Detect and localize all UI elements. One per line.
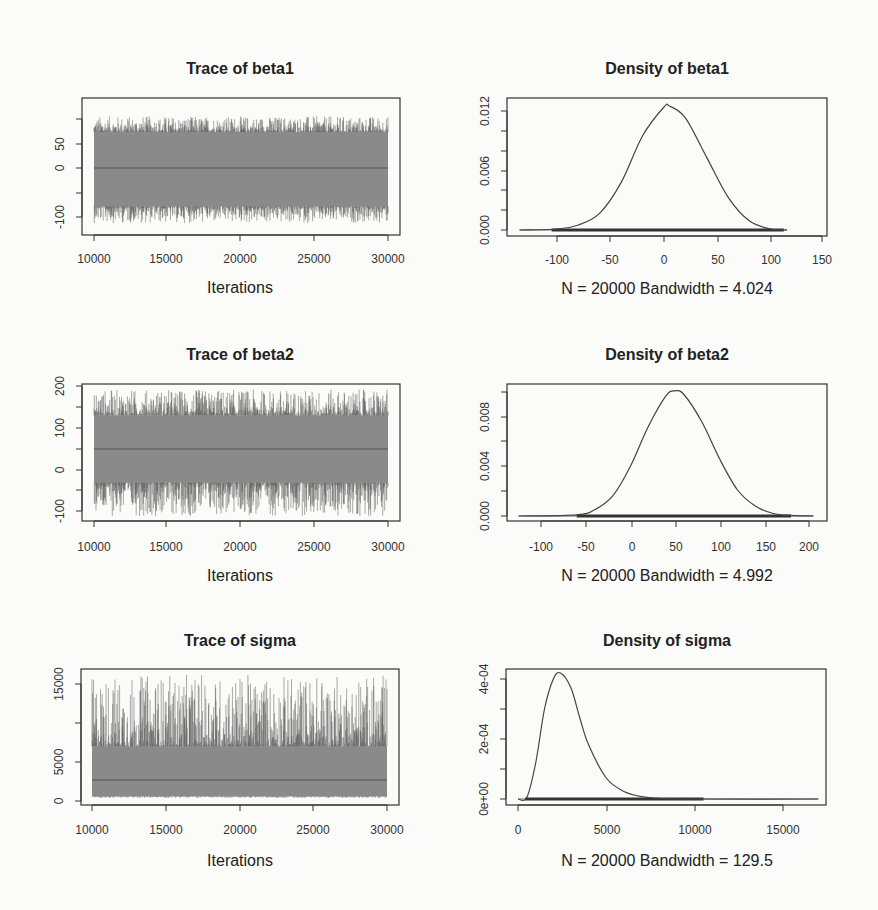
trace-band bbox=[94, 116, 388, 223]
svg-text:100: 100 bbox=[761, 253, 781, 267]
y-tick-labels: -100 0 100 200 bbox=[53, 376, 67, 523]
x-axis-label: N = 20000 Bandwidth = 4.024 bbox=[561, 280, 773, 297]
x-tick-labels: 10000 15000 20000 25000 30000 bbox=[77, 540, 405, 554]
x-axis-label: N = 20000 Bandwidth = 4.992 bbox=[561, 567, 773, 584]
plot-frame bbox=[506, 669, 826, 805]
x-axis-label: N = 20000 Bandwidth = 129.5 bbox=[561, 852, 773, 869]
svg-text:0.004: 0.004 bbox=[478, 451, 492, 481]
trace-band bbox=[94, 389, 388, 516]
svg-text:2e-04: 2e-04 bbox=[477, 723, 491, 754]
x-tick-labels: 10000 15000 20000 25000 30000 bbox=[77, 252, 405, 266]
svg-text:0.012: 0.012 bbox=[478, 96, 492, 126]
x-axis bbox=[94, 235, 388, 241]
y-axis bbox=[501, 111, 507, 230]
svg-text:150: 150 bbox=[756, 540, 776, 554]
svg-text:0: 0 bbox=[629, 540, 636, 554]
chart-title: Trace of sigma bbox=[184, 632, 296, 649]
svg-text:0.000: 0.000 bbox=[478, 501, 492, 531]
svg-text:15000: 15000 bbox=[149, 540, 183, 554]
plot-frame bbox=[507, 98, 827, 236]
chart-title: Density of beta1 bbox=[605, 60, 729, 77]
density-curve bbox=[518, 672, 818, 800]
svg-text:-100: -100 bbox=[53, 499, 67, 523]
svg-text:50: 50 bbox=[669, 540, 683, 554]
y-tick-labels: 0.000 0.006 0.012 bbox=[478, 96, 492, 245]
svg-text:0e+00: 0e+00 bbox=[477, 782, 491, 816]
y-axis bbox=[501, 392, 507, 516]
svg-text:-50: -50 bbox=[601, 253, 619, 267]
y-axis bbox=[76, 386, 82, 511]
svg-text:15000: 15000 bbox=[149, 823, 183, 837]
svg-text:15000: 15000 bbox=[766, 823, 800, 837]
chart-title: Density of sigma bbox=[603, 632, 731, 649]
svg-text:20000: 20000 bbox=[223, 823, 257, 837]
y-tick-labels: -100 50 0 bbox=[53, 137, 67, 229]
x-tick-labels: -100 -50 0 50 100 150 bbox=[545, 253, 832, 267]
svg-text:15000: 15000 bbox=[149, 252, 183, 266]
svg-text:0: 0 bbox=[515, 823, 522, 837]
svg-text:30000: 30000 bbox=[371, 252, 405, 266]
svg-text:100: 100 bbox=[711, 540, 731, 554]
svg-text:25000: 25000 bbox=[296, 823, 330, 837]
panel-density-beta1: Density of beta1 -100 -50 0 50 100 150 0… bbox=[478, 60, 832, 297]
y-axis bbox=[76, 119, 82, 217]
panel-trace-sigma: Trace of sigma 10000 15000 20000 25000 3… bbox=[52, 632, 404, 869]
svg-text:50: 50 bbox=[711, 253, 725, 267]
svg-text:0.006: 0.006 bbox=[478, 156, 492, 186]
svg-text:0: 0 bbox=[53, 466, 67, 473]
x-tick-labels: 0 5000 10000 15000 bbox=[515, 823, 800, 837]
y-tick-labels: 0 5000 15000 bbox=[52, 667, 66, 804]
svg-text:-100: -100 bbox=[545, 253, 569, 267]
svg-text:50: 50 bbox=[53, 137, 67, 151]
svg-text:5000: 5000 bbox=[52, 748, 66, 775]
svg-text:10000: 10000 bbox=[678, 823, 712, 837]
chart-title: Trace of beta2 bbox=[186, 346, 294, 363]
x-tick-labels: 10000 15000 20000 25000 30000 bbox=[75, 823, 404, 837]
x-axis-label: Iterations bbox=[207, 279, 273, 296]
trace-band bbox=[92, 675, 387, 798]
svg-text:10000: 10000 bbox=[75, 823, 109, 837]
svg-text:20000: 20000 bbox=[223, 540, 257, 554]
svg-text:30000: 30000 bbox=[371, 540, 405, 554]
x-axis bbox=[94, 521, 388, 527]
y-axis bbox=[75, 684, 81, 801]
svg-text:0: 0 bbox=[661, 253, 668, 267]
x-axis bbox=[541, 521, 809, 527]
svg-text:0: 0 bbox=[52, 797, 66, 804]
panel-density-sigma: Density of sigma 0 5000 10000 15000 0e+0… bbox=[477, 632, 826, 869]
x-axis bbox=[557, 236, 822, 242]
svg-text:10000: 10000 bbox=[77, 252, 111, 266]
svg-text:0.000: 0.000 bbox=[478, 215, 492, 245]
svg-text:10000: 10000 bbox=[77, 540, 111, 554]
svg-text:200: 200 bbox=[53, 376, 67, 396]
svg-text:0: 0 bbox=[53, 164, 67, 171]
y-tick-labels: 0e+00 2e-04 4e-04 bbox=[477, 663, 491, 816]
svg-text:30000: 30000 bbox=[370, 823, 404, 837]
svg-text:4e-04: 4e-04 bbox=[477, 663, 491, 694]
y-tick-labels: 0.000 0.004 0.008 bbox=[478, 402, 492, 531]
mcmc-diagnostics-figure: Trace of beta1 10000 15000 20000 25000 3… bbox=[0, 0, 878, 910]
chart-title: Density of beta2 bbox=[605, 346, 729, 363]
svg-text:-100: -100 bbox=[529, 540, 553, 554]
svg-text:200: 200 bbox=[799, 540, 819, 554]
x-axis-label: Iterations bbox=[207, 567, 273, 584]
x-tick-labels: -100 -50 0 50 100 150 200 bbox=[529, 540, 819, 554]
density-curve bbox=[519, 391, 814, 516]
panel-trace-beta1: Trace of beta1 10000 15000 20000 25000 3… bbox=[53, 60, 405, 296]
svg-text:15000: 15000 bbox=[52, 667, 66, 701]
svg-text:0.008: 0.008 bbox=[478, 402, 492, 432]
density-curve bbox=[520, 104, 788, 230]
svg-text:20000: 20000 bbox=[223, 252, 257, 266]
chart-title: Trace of beta1 bbox=[186, 60, 294, 77]
svg-text:-50: -50 bbox=[577, 540, 595, 554]
x-axis bbox=[92, 805, 387, 811]
svg-text:5000: 5000 bbox=[594, 823, 621, 837]
svg-text:100: 100 bbox=[53, 418, 67, 438]
x-axis bbox=[518, 805, 783, 811]
svg-text:25000: 25000 bbox=[297, 540, 331, 554]
svg-text:150: 150 bbox=[812, 253, 832, 267]
x-axis-label: Iterations bbox=[207, 852, 273, 869]
plot-frame bbox=[507, 384, 827, 521]
panel-trace-beta2: Trace of beta2 10000 15000 20000 25000 3… bbox=[53, 346, 405, 584]
y-axis bbox=[500, 679, 506, 799]
